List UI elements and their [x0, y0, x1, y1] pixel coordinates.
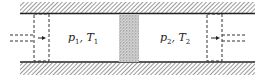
diagram-graphics: [0, 0, 255, 78]
left-arrow-icon: [38, 36, 46, 40]
left-state-label: p1, T1: [68, 31, 98, 46]
lower-wall: [20, 62, 255, 75]
temperature-subscript: 2: [186, 38, 190, 46]
temperature-subscript: 1: [94, 38, 98, 46]
pressure-symbol: p: [68, 31, 75, 44]
temperature-symbol: T: [179, 31, 186, 44]
separator: ,: [80, 31, 87, 44]
right-state-label: p2, T2: [160, 31, 190, 46]
right-arrow-icon: [211, 36, 220, 40]
porous-plug: [119, 14, 139, 62]
separator: ,: [172, 31, 179, 44]
pressure-symbol: p: [160, 31, 167, 44]
throttling-diagram: p1, T1 p2, T2: [0, 0, 255, 78]
upper-wall: [20, 2, 255, 14]
temperature-symbol: T: [87, 31, 94, 44]
